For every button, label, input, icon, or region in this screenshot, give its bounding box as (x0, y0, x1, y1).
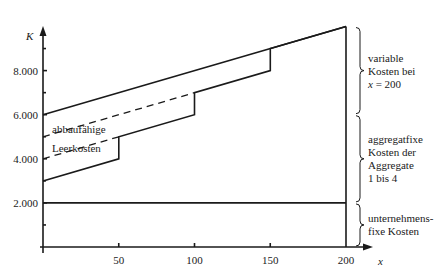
y-tick-label: 4.000 (13, 153, 38, 165)
x-axis-arrow-icon (363, 244, 373, 251)
brace-aggregate-fixed-costs-label-line: aggregatfixe (368, 133, 423, 145)
annotations: abbaufähige Leerkosten (52, 123, 106, 154)
brace-variable-costs-label-line: variable (368, 52, 404, 64)
brace-company-fixed-costs-label-line: fixe Kosten (368, 225, 420, 237)
x-tick-label: 150 (262, 254, 279, 266)
braces: variableKosten beix = 200aggregatfixeKos… (356, 28, 434, 247)
x-tick-label: 50 (113, 254, 125, 266)
ticks: 501001502002.0004.0006.0008.000 (13, 49, 355, 266)
leerkosten-label-line1: abbaufähige (52, 123, 106, 135)
y-axis-title: K (25, 30, 34, 42)
brace-variable-costs-label-line: x = 200 (367, 78, 402, 90)
leerkosten-label-line2: Leerkosten (52, 142, 101, 154)
brace-aggregate-fixed-costs-label-line: Aggregate (368, 159, 414, 171)
x-tick-label: 200 (338, 254, 355, 266)
y-tick-label: 6.000 (13, 109, 38, 121)
cost-chart: K x 501001502002.0004.0006.0008.000 abba… (0, 0, 442, 276)
brace-variable-costs (356, 28, 364, 114)
series-aggregat-treppe (43, 27, 346, 181)
y-tick-label: 2.000 (13, 197, 38, 209)
brace-variable-costs-label-line: Kosten bei (368, 65, 415, 77)
brace-company-fixed-costs-label-line: unternehmens- (368, 212, 434, 224)
series (43, 27, 346, 248)
brace-aggregate-fixed-costs-label-line: 1 bis 4 (368, 172, 398, 184)
brace-company-fixed-costs (356, 204, 364, 246)
y-tick-label: 8.000 (13, 65, 38, 77)
brace-aggregate-fixed-costs (356, 116, 364, 202)
x-axis-title: x (377, 255, 383, 267)
y-axis-arrow-icon (40, 26, 47, 36)
brace-aggregate-fixed-costs-label-line: Kosten der (368, 146, 416, 158)
x-tick-label: 100 (186, 254, 203, 266)
